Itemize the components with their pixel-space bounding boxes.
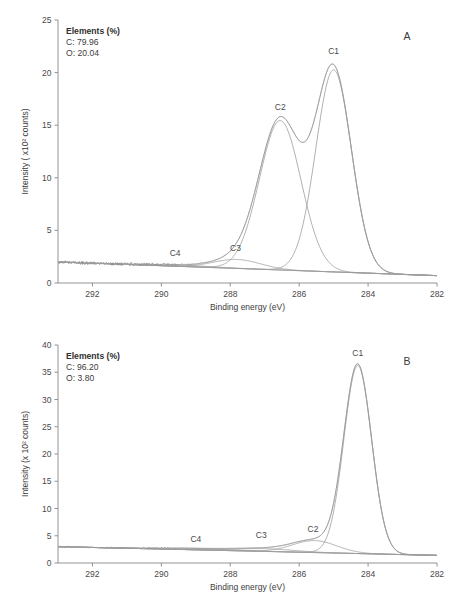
peak-label-c2: C2 <box>308 524 319 534</box>
peak-annotations: C1C2C3C4 <box>190 348 363 544</box>
legend-entry: O: 3.80 <box>66 373 94 383</box>
y-tick-label: 15 <box>42 120 52 130</box>
x-axis-ticks: 292290288286284282 <box>85 563 444 579</box>
y-axis-ticks: 0510152025303540 <box>42 340 58 568</box>
curve-component-c1 <box>58 70 437 276</box>
axes <box>58 20 437 283</box>
panel-letter-b: B <box>403 355 410 367</box>
curve-component-c1 <box>58 366 437 556</box>
y-axis-ticks: 0510152025 <box>42 15 58 288</box>
peak-label-c1: C1 <box>352 348 363 358</box>
x-tick-label: 290 <box>154 289 168 299</box>
spectrum-curves <box>58 64 437 276</box>
x-tick-label: 284 <box>361 569 375 579</box>
x-tick-label: 286 <box>292 569 306 579</box>
curve-raw-data <box>58 64 437 276</box>
panel-a: 0510152025292290288286284282Binding ener… <box>0 0 454 312</box>
y-tick-label: 40 <box>42 340 52 350</box>
x-axis-ticks: 292290288286284282 <box>85 283 444 299</box>
y-tick-label: 25 <box>42 15 52 25</box>
peak-label-c3: C3 <box>230 243 241 253</box>
legend-entry: C: 96.20 <box>66 362 99 372</box>
y-tick-label: 20 <box>42 68 52 78</box>
x-tick-label: 288 <box>223 289 237 299</box>
y-tick-label: 0 <box>47 558 52 568</box>
chart-b: 0510152025303540292290288286284282Bindin… <box>0 312 454 605</box>
legend-entry: O: 20.04 <box>66 48 99 58</box>
y-axis-title: Intensity (x 10² counts) <box>20 411 30 497</box>
y-axis-title: Intensity ( x10² counts) <box>20 108 30 194</box>
x-tick-label: 282 <box>430 289 444 299</box>
legend-title: Elements (%) <box>66 351 120 361</box>
x-tick-label: 288 <box>223 569 237 579</box>
x-tick-label: 292 <box>85 569 99 579</box>
elements-legend: Elements (%)C: 96.20O: 3.80 <box>66 351 120 383</box>
panel-b: 0510152025303540292290288286284282Bindin… <box>0 312 454 605</box>
elements-legend: Elements (%)C: 79.96O: 20.04 <box>66 26 120 58</box>
spectrum-curves <box>58 364 437 556</box>
peak-label-c4: C4 <box>190 534 201 544</box>
chart-a: 0510152025292290288286284282Binding ener… <box>0 0 454 312</box>
panel-letter-a: A <box>403 30 410 42</box>
curve-raw-data <box>58 364 437 556</box>
legend-entry: C: 79.96 <box>66 37 99 47</box>
y-tick-label: 25 <box>42 422 52 432</box>
y-tick-label: 0 <box>47 278 52 288</box>
peak-annotations: C1C2C3C4 <box>170 46 340 258</box>
peak-label-c4: C4 <box>170 248 181 258</box>
y-tick-label: 15 <box>42 476 52 486</box>
x-tick-label: 286 <box>292 289 306 299</box>
x-tick-label: 282 <box>430 569 444 579</box>
y-tick-label: 35 <box>42 367 52 377</box>
peak-label-c1: C1 <box>328 46 339 56</box>
x-tick-label: 284 <box>361 289 375 299</box>
curve-envelope <box>58 364 437 556</box>
x-tick-label: 292 <box>85 289 99 299</box>
x-axis-title: Binding energy (eV) <box>210 582 285 592</box>
curve-envelope <box>58 64 437 276</box>
curve-component-c2 <box>58 121 437 276</box>
peak-label-c2: C2 <box>275 102 286 112</box>
y-tick-label: 5 <box>47 225 52 235</box>
y-tick-label: 20 <box>42 449 52 459</box>
peak-label-c3: C3 <box>256 530 267 540</box>
xps-figure: 0510152025292290288286284282Binding ener… <box>0 0 454 605</box>
axes <box>58 345 437 563</box>
x-tick-label: 290 <box>154 569 168 579</box>
y-tick-label: 5 <box>47 531 52 541</box>
legend-title: Elements (%) <box>66 26 120 36</box>
x-axis-title: Binding energy (eV) <box>210 302 285 312</box>
y-tick-label: 30 <box>42 395 52 405</box>
y-tick-label: 10 <box>42 504 52 514</box>
y-tick-label: 10 <box>42 173 52 183</box>
